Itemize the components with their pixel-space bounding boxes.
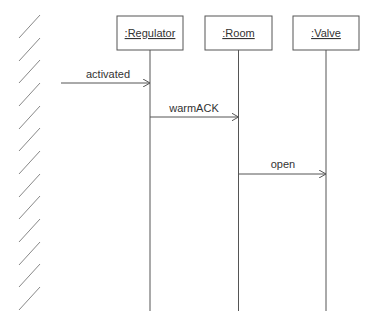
- object-label-valve: :Valve: [311, 27, 341, 39]
- hatch-mark: [19, 287, 40, 310]
- hatch-mark: [19, 15, 40, 38]
- hatch-mark: [19, 38, 40, 61]
- message-label: activated: [86, 68, 130, 80]
- hatch-mark: [19, 60, 40, 83]
- hatch-mark: [19, 174, 40, 197]
- hatch-mark: [19, 242, 40, 265]
- message-warmack: warmACK: [150, 102, 239, 117]
- hatch-mark: [19, 83, 40, 106]
- hatch-mark: [19, 106, 40, 129]
- message-label: warmACK: [168, 102, 219, 114]
- object-label-regulator: :Regulator: [125, 27, 176, 39]
- lifeline-regulator: :Regulator: [117, 16, 183, 311]
- object-label-room: :Room: [222, 27, 254, 39]
- lifeline-room: :Room: [205, 16, 272, 311]
- environment-boundary: [19, 15, 40, 310]
- hatch-mark: [19, 264, 40, 287]
- hatch-mark: [19, 128, 40, 151]
- message-label: open: [271, 158, 295, 170]
- hatch-mark: [19, 219, 40, 242]
- sequence-diagram: :Regulator :Room :Valve activated warmAC…: [0, 0, 378, 326]
- message-open: open: [239, 158, 327, 174]
- lifeline-valve: :Valve: [293, 16, 359, 311]
- message-activated: activated: [61, 68, 150, 83]
- hatch-mark: [19, 151, 40, 174]
- hatch-mark: [19, 196, 40, 219]
